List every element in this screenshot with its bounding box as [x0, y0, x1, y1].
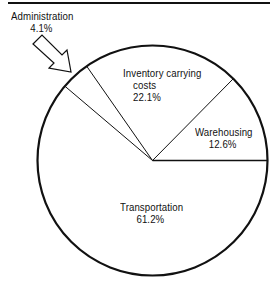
administration-arrow-icon	[33, 35, 71, 72]
administration-value: 4.1%	[11, 22, 72, 34]
transportation-value: 61.2%	[120, 213, 181, 225]
warehousing-label: Warehousing 12.6%	[195, 126, 250, 150]
inventory-value: 22.1%	[123, 91, 201, 103]
warehousing-name: Warehousing	[195, 126, 250, 138]
inventory-name-line1: Inventory carrying	[123, 67, 201, 79]
warehousing-value: 12.6%	[195, 138, 250, 150]
administration-name: Administration	[11, 10, 72, 22]
transportation-label: Transportation 61.2%	[120, 201, 181, 225]
administration-label: Administration 4.1%	[11, 10, 72, 34]
inventory-name-line2: costs	[123, 79, 201, 91]
transportation-name: Transportation	[120, 201, 181, 213]
inventory-label: Inventory carrying costs 22.1%	[123, 67, 201, 103]
